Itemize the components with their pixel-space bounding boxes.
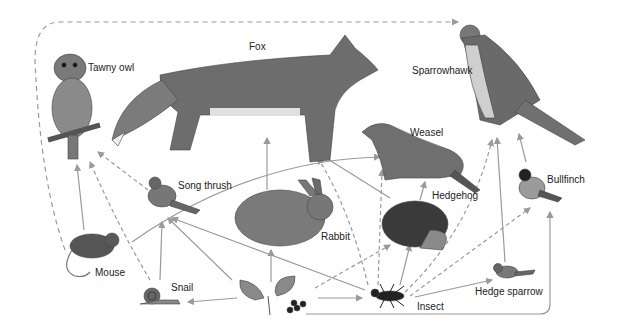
arrow-mouse-to-owl xyxy=(77,165,84,230)
arrow-plant-to-hedgehog xyxy=(315,245,390,288)
label-hedgehog: Hedgehog xyxy=(432,191,478,201)
plant-illustration xyxy=(240,276,306,315)
label-weasel: Weasel xyxy=(410,128,443,138)
arrow-plant-to-thrush xyxy=(168,218,232,280)
food-web-arrows xyxy=(0,0,618,331)
label-insect: Insect xyxy=(417,302,444,312)
arrow-snail-to-thrush xyxy=(160,222,162,280)
label-mouse: Mouse xyxy=(95,268,125,278)
label-sparrowhawk: Sparrowhawk xyxy=(412,66,473,76)
label-bullfinch: Bullfinch xyxy=(547,175,585,185)
arrow-snail-to-owl xyxy=(90,162,150,280)
arrow-hedgesparrow-to-sparrowhawk xyxy=(497,138,505,262)
label-tawny-owl: Tawny owl xyxy=(88,63,134,73)
hedge-sparrow-illustration xyxy=(494,264,536,279)
arrow-insect-to-weasel xyxy=(378,170,382,285)
fox-illustration xyxy=(112,35,378,162)
label-hedge-sparrow: Hedge sparrow xyxy=(475,287,543,297)
arrow-plant-to-snail xyxy=(188,298,237,302)
sparrowhawk-illustration xyxy=(460,25,585,145)
rabbit-illustration xyxy=(235,178,333,246)
insect-illustration xyxy=(371,284,404,308)
food-web-diagram: Tawny owl Fox Sparrowhawk Weasel Song th… xyxy=(0,0,618,331)
arrow-hedgehog-to-weasel xyxy=(420,182,425,200)
label-snail: Snail xyxy=(171,283,193,293)
arrow-insect-to-hedgehog xyxy=(400,245,410,285)
arrow-thrush-to-owl xyxy=(98,152,148,190)
arrow-insect-to-fox xyxy=(318,158,368,285)
label-fox: Fox xyxy=(249,42,266,52)
arrow-bullfinch-to-sparrowhawk xyxy=(519,134,526,162)
label-song-thrush: Song thrush xyxy=(178,181,232,191)
hedgehog-illustration xyxy=(382,201,448,250)
label-rabbit: Rabbit xyxy=(321,232,350,242)
